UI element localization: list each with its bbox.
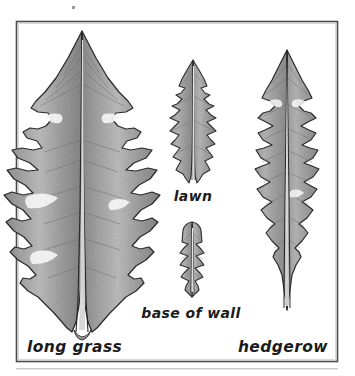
frame-shadow-line	[16, 368, 338, 369]
label-lawn: lawn	[174, 188, 213, 204]
label-long-grass: long grass	[27, 338, 122, 356]
botanical-illustration: long grass lawn base of wall hedgerow	[0, 0, 355, 376]
stray-speck-mark	[72, 6, 75, 9]
illustration-canvas: long grass lawn base of wall hedgerow	[0, 0, 355, 376]
label-base-of-wall: base of wall	[141, 305, 241, 321]
label-hedgerow: hedgerow	[238, 338, 328, 356]
